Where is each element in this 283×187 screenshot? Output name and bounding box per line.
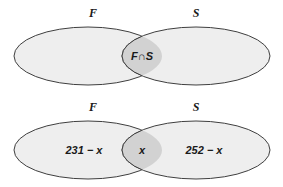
bottom-right-set-label: S xyxy=(193,100,200,114)
top-left-set-label: F xyxy=(88,6,97,20)
bottom-left-only-count-label: 231 − x xyxy=(64,144,103,156)
venn-diagram-figure: F S F∩S F S 231 − x x 252 − x xyxy=(0,0,283,187)
top-right-set-label: S xyxy=(193,6,200,20)
bottom-right-only-count-label: 252 − x xyxy=(184,144,223,156)
bottom-left-set-label: F xyxy=(88,100,97,114)
bottom-intersection-count-label: x xyxy=(138,144,146,156)
top-intersection-label: F∩S xyxy=(131,50,154,62)
